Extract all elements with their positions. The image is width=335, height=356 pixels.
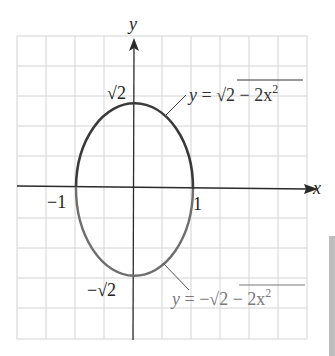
page-edge-strip xyxy=(329,236,335,356)
y-axis xyxy=(133,46,134,340)
y-axis-label: y xyxy=(127,14,137,34)
lower-eq-radicand: 2 − 2x xyxy=(219,289,265,309)
svg-text:y = √2 − 2x2: y = √2 − 2x2 xyxy=(187,82,278,105)
tick-label-x-pos: 1 xyxy=(193,194,202,214)
upper-curve xyxy=(76,103,193,189)
tick-label-x-neg: −1 xyxy=(47,192,66,212)
lower-eq-superscript: 2 xyxy=(265,286,271,300)
upper-eq-superscript: 2 xyxy=(272,82,278,96)
upper-leader-line xyxy=(166,95,186,115)
tick-label-y-neg: −√2 xyxy=(87,280,116,300)
lower-equation-label: y = −√2 − 2x2 xyxy=(170,285,305,309)
upper-eq-y: y xyxy=(187,85,197,105)
svg-text:y = −√2 − 2x2: y = −√2 − 2x2 xyxy=(170,286,271,309)
upper-eq-equals: = √ xyxy=(197,85,226,105)
tick-label-y-pos: √2 xyxy=(107,83,126,103)
lower-eq-equals: = −√ xyxy=(180,289,219,309)
x-axis-label: x xyxy=(312,178,321,198)
ellipse-graph: y x −1 1 √2 −√2 y = √2 − 2x2 y = −√2 − 2… xyxy=(0,0,335,356)
lower-leader-line xyxy=(163,263,189,290)
upper-equation-label: y = √2 − 2x2 xyxy=(187,80,303,105)
lower-eq-y: y xyxy=(170,289,180,309)
upper-eq-radicand: 2 − 2x xyxy=(226,85,272,105)
lower-curve xyxy=(76,187,193,276)
